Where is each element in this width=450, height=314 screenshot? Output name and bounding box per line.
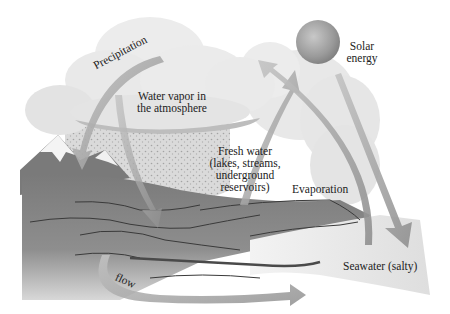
fresh-water-line4: reservoirs) xyxy=(190,181,300,193)
solar-energy-label: Solar energy xyxy=(342,40,382,64)
seawater-label: Seawater (salty) xyxy=(343,260,417,272)
cloud-main xyxy=(25,17,275,135)
solar-line1: Solar xyxy=(342,40,382,52)
sun xyxy=(296,20,340,64)
fresh-water-line3: underground xyxy=(190,169,300,181)
solar-line2: energy xyxy=(342,52,382,64)
water-cycle-diagram: Precipitation Water vapor in the atmosph… xyxy=(0,0,450,314)
evaporation-label: Evaporation xyxy=(292,183,348,195)
fresh-water-label: Fresh water (lakes, streams, underground… xyxy=(190,145,300,193)
water-vapor-line1: Water vapor in xyxy=(132,90,212,102)
water-vapor-label: Water vapor in the atmosphere xyxy=(132,90,212,114)
water-vapor-line2: the atmosphere xyxy=(132,102,212,114)
fresh-water-line1: Fresh water xyxy=(190,145,300,157)
fresh-water-line2: (lakes, streams, xyxy=(190,157,300,169)
